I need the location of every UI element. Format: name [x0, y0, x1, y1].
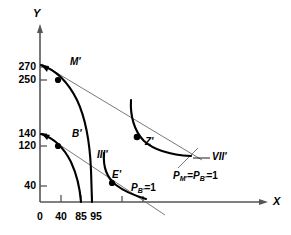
ppf-curve-upper [41, 65, 92, 202]
point-label-m-prime: M' [70, 57, 81, 67]
x-tick-label-40: 40 [52, 211, 70, 222]
point-marker-m-prime [55, 77, 61, 83]
price-label-mb-p2: P [193, 170, 200, 181]
x-axis-arrowhead [259, 199, 268, 205]
x-tick-label-0: 0 [32, 211, 48, 222]
economics-ppf-diagram [0, 0, 291, 235]
y-tick-label-140: 140 [8, 128, 36, 139]
y-tick-marks [40, 67, 47, 186]
price-line-m-z [42, 64, 202, 160]
curve-label-indifference-vii: VII' [212, 152, 227, 162]
y-tick-label-120: 120 [8, 140, 36, 151]
y-tick-label-270: 270 [8, 61, 36, 72]
point-marker-e-prime [109, 180, 115, 186]
price-label-mb-eq2: =1 [206, 170, 217, 181]
price-label-b-eq: =1 [144, 182, 155, 193]
curve-label-indifference-iii: III' [97, 150, 108, 160]
y-tick-label-40: 40 [8, 180, 36, 191]
point-marker-z-prime [134, 134, 141, 141]
price-label-mb-sub1: M' [180, 175, 188, 182]
y-axis-arrowhead [37, 24, 43, 33]
price-label-budget-mb: PM'=PB'=1 [173, 171, 218, 181]
x-tick-label-95: 95 [87, 211, 105, 222]
price-label-b-p: P [131, 182, 138, 193]
price-label-mb-p1: P [173, 170, 180, 181]
price-label-budget-b: PB'=1 [131, 183, 156, 193]
price-label-mb-sub2: B' [200, 175, 207, 182]
x-axis-label: X [273, 196, 280, 207]
point-marker-b-prime [55, 143, 61, 149]
x-tick-marks [61, 195, 143, 202]
y-tick-label-250: 250 [8, 74, 36, 85]
y-axis-label: Y [33, 8, 40, 19]
figure-container: Y X 270 250 140 120 40 0 40 85 95 M' B' … [0, 0, 291, 235]
ppf-curve-lower [41, 134, 81, 202]
intercept-arrow-140 [41, 133, 50, 140]
point-label-z-prime: Z' [145, 137, 154, 147]
price-label-b-sub: B' [138, 187, 145, 194]
point-label-e-prime: E' [112, 170, 121, 180]
point-label-b-prime: B' [72, 129, 82, 139]
intercept-arrow-270 [41, 65, 49, 72]
